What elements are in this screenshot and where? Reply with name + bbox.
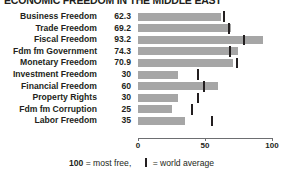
plot-cell <box>138 34 272 46</box>
row-value: 93.2 <box>100 34 131 46</box>
x-axis-tick-label: 100 <box>265 141 278 150</box>
chart-row: Labor Freedom 35 <box>0 115 283 127</box>
row-label: Fiscal Freedom <box>0 34 97 46</box>
value-bar <box>138 47 238 55</box>
value-bar <box>138 71 178 79</box>
row-label: Monetary Freedom <box>0 57 97 69</box>
chart-row: Financial Freedom 60 <box>0 81 283 93</box>
row-value: 60 <box>100 81 131 93</box>
world-average-tick <box>243 35 245 46</box>
world-average-tick <box>203 81 205 92</box>
value-bar <box>138 82 218 90</box>
chart-row: Fdm fm Government 74.3 <box>0 46 283 58</box>
plot-cell <box>138 11 272 23</box>
chart-row: Trade Freedom 69.2 <box>0 23 283 35</box>
value-bar <box>138 24 231 32</box>
row-value: 69.2 <box>100 23 131 35</box>
world-average-tick <box>197 93 199 104</box>
plot-cell <box>138 23 272 35</box>
row-label: Trade Freedom <box>0 23 97 35</box>
world-average-tick <box>211 116 213 127</box>
value-bar <box>138 117 185 125</box>
world-average-tick <box>229 46 231 57</box>
legend-scale-text: = most free, <box>83 158 131 168</box>
world-average-tick <box>236 58 238 69</box>
row-label: Business Freedom <box>0 11 97 23</box>
world-average-tick <box>228 23 230 34</box>
chart-row: Business Freedom 62.3 <box>0 11 283 23</box>
plot-cell <box>138 115 272 127</box>
chart-row: Investment Freedom 30 <box>0 69 283 81</box>
economic-freedom-bar-chart: ECONOMIC FREEDOM IN THE MIDDLE EAST Busi… <box>0 0 283 176</box>
plot-cell <box>138 92 272 104</box>
value-bar <box>138 105 172 113</box>
row-label: Fdm fm Corruption <box>0 104 97 116</box>
row-value: 25 <box>100 104 131 116</box>
chart-row: Monetary Freedom 70.9 <box>0 57 283 69</box>
chart-title: ECONOMIC FREEDOM IN THE MIDDLE EAST <box>4 0 254 4</box>
chart-rows: Business Freedom 62.3 Trade Freedom 69.2… <box>0 11 283 127</box>
legend-scale-value: 100 <box>69 158 83 168</box>
row-label: Investment Freedom <box>0 69 97 81</box>
row-value: 30 <box>100 69 131 81</box>
row-label: Property Rights <box>0 92 97 104</box>
chart-row: Property Rights 30 <box>0 92 283 104</box>
chart-legend: 100 = most free, = world average <box>0 158 283 168</box>
row-value: 62.3 <box>100 11 131 23</box>
plot-cell <box>138 46 272 58</box>
row-value: 35 <box>100 115 131 127</box>
row-label: Fdm fm Government <box>0 46 97 58</box>
value-bar <box>138 94 178 102</box>
row-value: 70.9 <box>100 57 131 69</box>
chart-row: Fiscal Freedom 93.2 <box>0 34 283 46</box>
row-label: Labor Freedom <box>0 115 97 127</box>
plot-cell <box>138 57 272 69</box>
row-value: 30 <box>100 92 131 104</box>
value-bar <box>138 59 233 67</box>
value-bar <box>138 13 221 21</box>
x-axis-tick-label: 0 <box>136 141 140 150</box>
plot-cell <box>138 69 272 81</box>
world-average-tick <box>197 69 199 80</box>
plot-cell <box>138 104 272 116</box>
world-average-tick <box>191 104 193 115</box>
vertical-bar-icon <box>145 158 147 167</box>
plot-cell <box>138 81 272 93</box>
world-average-tick <box>223 11 225 22</box>
row-label: Financial Freedom <box>0 81 97 93</box>
row-value: 74.3 <box>100 46 131 58</box>
chart-row: Fdm fm Corruption 25 <box>0 104 283 116</box>
legend-tick-text: = world average <box>150 158 214 168</box>
x-axis-tick-label: 50 <box>201 141 210 150</box>
